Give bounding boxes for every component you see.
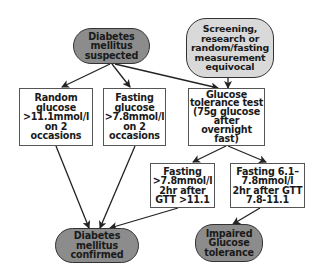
node-diabetes-suspected: Diabetes mellitus suspected [73,28,150,64]
arrow-suspected-to-random [62,64,110,87]
node-gtt-diabetic-range: Fasting >7.8mmol/l 2hr after GTT >11.1 [150,163,215,208]
arrow-diabetic-to-confirmed [110,208,178,228]
arrow-gtt-to-impaired [228,146,266,162]
arrow-fasting-to-confirmed [100,146,135,228]
node-diabetes-confirmed: Diabetes mellitus confirmed [55,228,139,263]
node-impaired-glucose-tolerance: Impaired Glucose tolerance [195,224,263,262]
arrow-gtt-to-diabetic [193,146,226,162]
node-gtt-impaired-range: Fasting 6.1– 7.8mmol/l 2hr after GTT 7.8… [230,163,305,208]
node-fasting-glucose: Fasting glucose >7.8mmol/l on 2 occasion… [103,88,166,146]
node-random-glucose: Random glucose >11.1mmol/l on 2 occasion… [19,88,93,146]
arrow-random-to-confirmed [56,146,89,228]
node-glucose-tolerance-test: Glucose tolerance test (75g glucose afte… [188,88,265,146]
arrow-impaired-gtt-to-impaired [233,208,260,224]
diagnosis-flowchart: Diabetes mellitus suspected Screening, r… [0,0,325,277]
node-screening-equivocal: Screening, research or random/fasting me… [186,18,274,78]
